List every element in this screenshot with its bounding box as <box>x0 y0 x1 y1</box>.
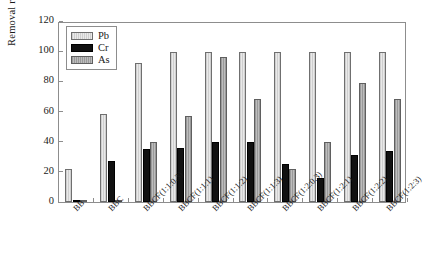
bar-as <box>254 99 261 202</box>
legend-swatch-cr-icon <box>71 44 93 52</box>
bar-cr <box>108 161 115 202</box>
y-tick-mark <box>59 21 63 22</box>
legend-label-cr: Cr <box>98 43 109 53</box>
bar-cr <box>143 149 150 202</box>
bar-pb <box>135 63 142 202</box>
x-tick-mark <box>163 198 164 202</box>
x-tick-mark <box>407 198 408 202</box>
bar-pb <box>100 114 107 202</box>
bar-pb <box>65 169 72 202</box>
x-tick-mark <box>337 198 338 202</box>
y-axis-title: Removal rate (%) <box>6 0 17 62</box>
y-tick-mark <box>59 51 63 52</box>
legend: Pb Cr As <box>66 26 117 70</box>
bar-as <box>220 57 227 202</box>
bar-cr <box>282 164 289 202</box>
y-tick-label: 20 <box>44 165 55 176</box>
y-tick-label: 40 <box>44 135 55 146</box>
x-tick-mark <box>267 198 268 202</box>
legend-item-as: As <box>71 54 110 66</box>
y-tick-mark <box>59 81 63 82</box>
y-tick-mark <box>59 111 63 112</box>
x-tick-mark <box>198 198 199 202</box>
bar-cr <box>212 142 219 202</box>
y-tick-label: 100 <box>38 44 54 55</box>
x-tick-mark <box>372 198 373 202</box>
x-tick-mark <box>128 198 129 202</box>
x-tick-mark <box>233 198 234 202</box>
y-tick-mark <box>59 141 63 142</box>
legend-label-as: As <box>98 55 110 65</box>
legend-swatch-pb-icon <box>71 32 93 40</box>
bar-cr <box>386 151 393 202</box>
bar-as <box>359 83 366 202</box>
legend-label-pb: Pb <box>98 31 109 41</box>
x-axis-category-labels: BBBBCBBCF(1:1:0.3)BBCF(1:1:1)BBCF(1:1:2)… <box>58 206 406 270</box>
legend-item-pb: Pb <box>71 30 110 42</box>
y-tick-label: 0 <box>49 195 54 206</box>
bar-group <box>135 23 157 202</box>
legend-swatch-as-icon <box>71 56 93 64</box>
x-tick-mark <box>302 198 303 202</box>
bar-as <box>394 99 401 202</box>
y-tick-mark <box>59 202 63 203</box>
x-tick-mark <box>93 198 94 202</box>
legend-item-cr: Cr <box>71 42 110 54</box>
y-tick-mark <box>59 171 63 172</box>
bar-as <box>185 116 192 202</box>
y-tick-label: 80 <box>44 74 55 85</box>
bar-cr <box>247 142 254 202</box>
y-tick-label: 60 <box>44 105 55 116</box>
y-tick-label: 120 <box>38 14 54 25</box>
